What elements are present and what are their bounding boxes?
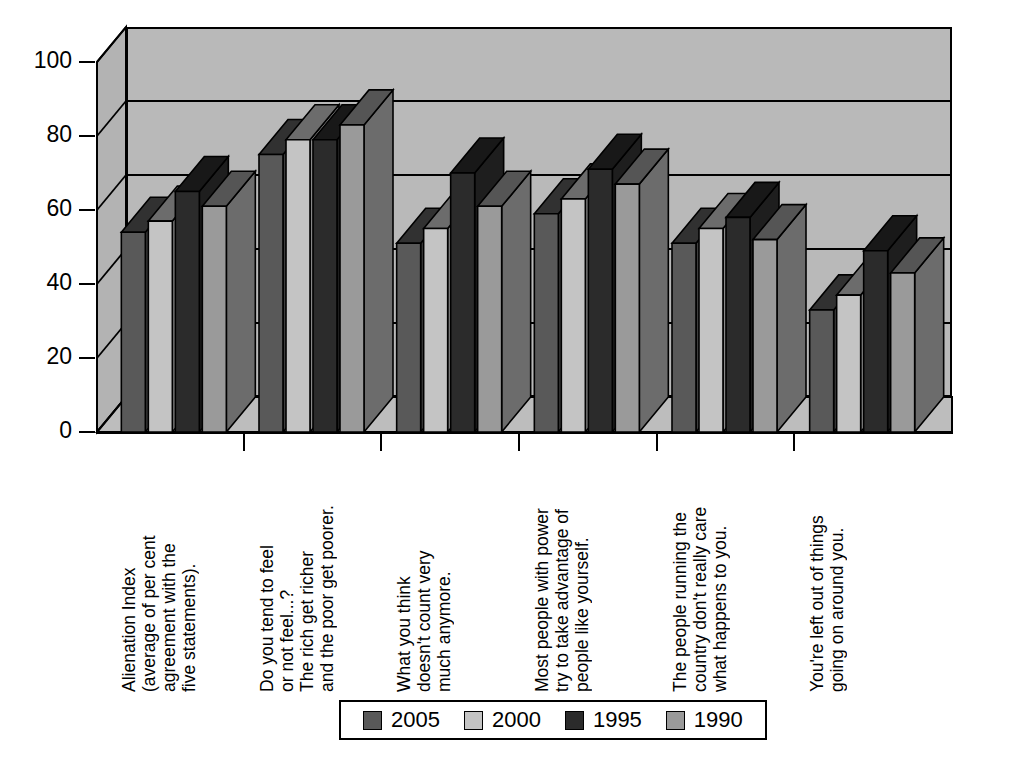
bar [478, 171, 531, 432]
legend-label: 2005 [391, 707, 440, 733]
category-label: What you think doesn't count very much a… [394, 452, 454, 692]
x-axis-category-tick [518, 434, 520, 451]
legend-label: 1990 [694, 707, 743, 733]
category-label: The people running the country don't rea… [670, 452, 730, 692]
x-axis-category-tick [380, 434, 382, 451]
legend-item: 2000 [464, 707, 541, 733]
legend-item: 2005 [363, 707, 440, 733]
legend-item: 1990 [666, 707, 743, 733]
category-label: Alienation Index (average of per cent ag… [119, 452, 199, 692]
bar [891, 238, 944, 432]
legend-item: 1995 [565, 707, 642, 733]
category-label: Most people with power try to take advan… [532, 452, 592, 692]
category-label: You're left out of things going on aroun… [807, 452, 847, 692]
bar [753, 205, 806, 432]
bar [202, 171, 255, 432]
legend-swatch [363, 711, 382, 730]
legend-swatch [666, 711, 685, 730]
legend-swatch [565, 711, 584, 730]
x-axis-line [96, 432, 953, 434]
chart-legend: 2005200019951990 [339, 700, 767, 740]
legend-label: 2000 [492, 707, 541, 733]
bar [340, 90, 393, 432]
category-label: Do you tend to feel or not feel...? The … [257, 452, 337, 692]
x-axis-category-tick [656, 434, 658, 451]
bar [615, 149, 668, 432]
legend-swatch [464, 711, 483, 730]
legend-label: 1995 [593, 707, 642, 733]
x-axis-category-tick [243, 434, 245, 451]
x-axis-category-tick [793, 434, 795, 451]
bar-chart: 020406080100 Alienation Index (average o… [0, 0, 1013, 765]
